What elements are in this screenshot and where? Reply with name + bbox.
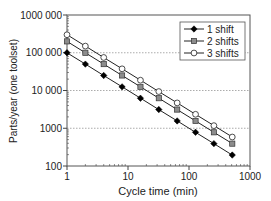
y-tick-label: 10 000 (31, 85, 62, 96)
x-tick-label: 1 (64, 171, 70, 182)
y-tick-label: 1000 000 (20, 10, 62, 21)
y-tick-label: 1000 (40, 123, 63, 134)
legend-label: 1 shift (207, 24, 234, 35)
legend: 1 shift2 shifts3 shifts (180, 22, 245, 60)
x-tick-label: 100 (181, 171, 198, 182)
x-axis-label: Cycle time (min) (118, 185, 197, 197)
legend-label: 3 shifts (207, 48, 239, 59)
y-tick-label: 100 000 (26, 47, 63, 58)
x-tick-labels: 1101001000 (64, 171, 261, 182)
y-axis-label: Parts/year (one toolset) (8, 39, 19, 143)
x-tick-label: 1000 (239, 171, 262, 182)
series-1 (64, 50, 236, 159)
chart: 100100010 000100 0001000 000 1101001000 … (0, 0, 271, 201)
legend-label: 2 shifts (207, 36, 239, 47)
y-tick-label: 100 (45, 161, 62, 172)
y-tick-labels: 100100010 000100 0001000 000 (20, 10, 62, 172)
x-tick-label: 10 (122, 171, 134, 182)
